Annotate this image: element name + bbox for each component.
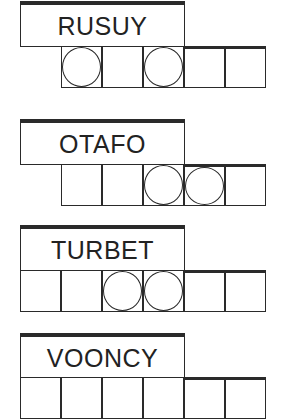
answer-cell[interactable]: [225, 46, 266, 88]
answer-cell[interactable]: [143, 164, 184, 206]
answer-cell[interactable]: [143, 377, 184, 419]
circle-marker-icon: [62, 47, 101, 87]
answer-cell[interactable]: [102, 46, 143, 88]
answer-cell[interactable]: [143, 46, 184, 88]
answer-cell[interactable]: [225, 270, 266, 312]
circle-marker-icon: [103, 271, 142, 311]
scrambled-word: RUSUY: [57, 14, 147, 39]
scrambled-word: OTAFO: [59, 132, 146, 157]
answer-cell[interactable]: [225, 377, 266, 419]
scrambled-word-box: TURBET: [20, 225, 185, 271]
circle-marker-icon: [144, 47, 183, 87]
answer-cell[interactable]: [61, 377, 102, 419]
answer-cell[interactable]: [61, 46, 102, 88]
answer-cell[interactable]: [184, 164, 225, 206]
scrambled-word: VOONCY: [47, 346, 158, 371]
circle-marker-icon: [144, 165, 183, 205]
scrambled-word-box: OTAFO: [20, 119, 185, 165]
answer-cell[interactable]: [102, 164, 143, 206]
scrambled-word-box: VOONCY: [20, 333, 185, 379]
scrambled-word-box: RUSUY: [20, 1, 185, 47]
answer-cell[interactable]: [184, 377, 225, 419]
circle-marker-icon: [185, 167, 224, 205]
circle-marker-icon: [144, 271, 183, 311]
answer-cell[interactable]: [184, 270, 225, 312]
answer-cell[interactable]: [143, 270, 184, 312]
answer-cell[interactable]: [20, 270, 61, 312]
answer-cell[interactable]: [20, 377, 61, 419]
answer-cell[interactable]: [184, 46, 225, 88]
answer-cell[interactable]: [61, 164, 102, 206]
answer-cell[interactable]: [102, 270, 143, 312]
answer-cell[interactable]: [61, 270, 102, 312]
answer-cell[interactable]: [225, 164, 266, 206]
scrambled-word: TURBET: [51, 238, 154, 263]
answer-cell[interactable]: [102, 377, 143, 419]
